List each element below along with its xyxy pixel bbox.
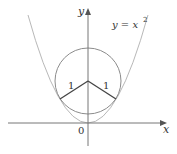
radius-right [88, 81, 116, 99]
curve-label: y = x [111, 19, 138, 30]
radius-right-label: 1 [103, 80, 109, 91]
diagram-canvas: y x 0 y = x 2 1 1 [0, 0, 177, 154]
curve-exponent: 2 [143, 16, 147, 24]
y-axis-label: y [77, 5, 85, 18]
x-axis-label: x [163, 123, 170, 136]
y-axis-arrow-icon [85, 8, 91, 15]
origin-label: 0 [78, 125, 84, 136]
radius-left-label: 1 [68, 80, 74, 91]
